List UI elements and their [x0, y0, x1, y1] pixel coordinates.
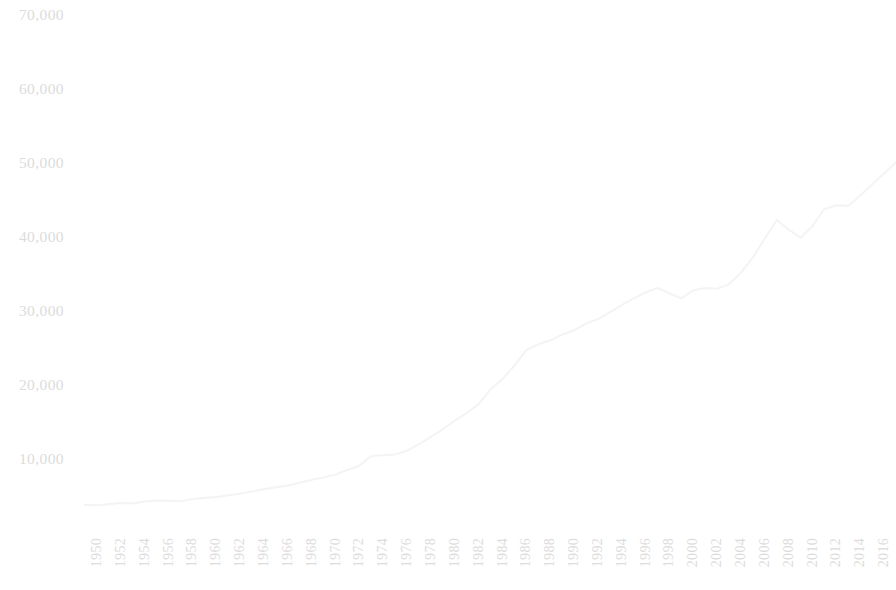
- series-svg: [0, 0, 896, 590]
- series-line-series-1: [85, 162, 896, 505]
- plot-area: [0, 0, 896, 590]
- line-chart: 10,00020,00030,00040,00050,00060,00070,0…: [0, 0, 896, 590]
